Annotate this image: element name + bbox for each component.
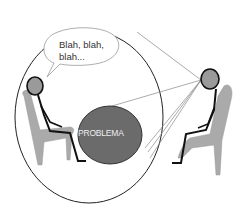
speech-line-1: Blah, blah, bbox=[59, 39, 119, 51]
problem-label: PROBLEMA bbox=[78, 128, 148, 138]
speech-bubble-text: Blah, blah, blah... bbox=[59, 39, 119, 63]
right-head bbox=[201, 69, 219, 89]
left-head bbox=[27, 77, 43, 95]
right-person bbox=[172, 69, 219, 163]
speech-line-2: blah... bbox=[59, 51, 119, 63]
diagram-canvas bbox=[0, 0, 245, 208]
